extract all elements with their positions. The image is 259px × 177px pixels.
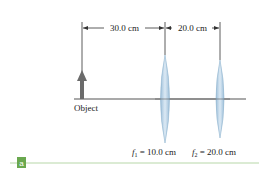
two-lens-diagram: 30.0 cm 20.0 cm Object f1 = 10.0 cm f2 =… — [0, 0, 259, 177]
object-label: Object — [74, 103, 98, 113]
dimension-30cm: 30.0 cm — [83, 23, 164, 33]
object-arrow-icon — [77, 70, 87, 99]
arrowhead-right-icon — [214, 26, 219, 30]
panel-label: a — [19, 159, 24, 168]
focal-length-2: f2 = 20.0 cm — [192, 147, 236, 158]
dimension-20cm: 20.0 cm — [166, 23, 219, 33]
arrowhead-left-icon — [166, 26, 171, 30]
dimension-label-1: 30.0 cm — [110, 23, 139, 33]
focal-length-1: f1 = 10.0 cm — [132, 147, 176, 158]
arrowhead-right-icon — [159, 26, 164, 30]
dimension-label-2: 20.0 cm — [178, 23, 207, 33]
arrowhead-left-icon — [83, 26, 88, 30]
